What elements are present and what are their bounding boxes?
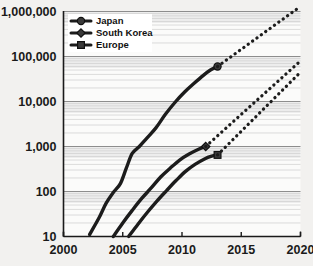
x-axis-tick-label: 2020 [287, 243, 313, 257]
x-axis-tick-label: 2015 [227, 243, 255, 257]
legend-label-japan: Japan [96, 15, 124, 26]
legend-marker-europe [78, 42, 85, 49]
legend-label-south-korea: South Korea [96, 27, 153, 38]
y-axis-tick-label: 100,000 [11, 50, 56, 64]
y-axis-tick-label: 10,000 [18, 95, 56, 109]
y-axis-tick-label: 1,000,000 [1, 5, 57, 19]
legend-marker-japan [77, 17, 84, 24]
y-axis-tick-label: 1,000 [25, 140, 56, 154]
x-axis-tick-label: 2010 [168, 243, 196, 257]
y-axis-tick-label: 100 [36, 185, 57, 199]
x-axis-tick-label: 2000 [50, 243, 78, 257]
log-line-chart: 101001,00010,000100,0001,000,00020002005… [0, 0, 313, 266]
chart-container: 101001,00010,000100,0001,000,00020002005… [0, 0, 313, 266]
legend-label-europe: Europe [96, 39, 129, 50]
x-axis-tick-label: 2005 [109, 243, 137, 257]
